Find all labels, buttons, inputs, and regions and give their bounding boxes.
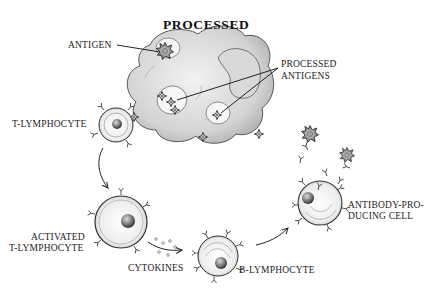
activated-label-line2: T-LYMPHOCYTE bbox=[9, 243, 83, 254]
arrow-t-to-activated bbox=[99, 148, 108, 188]
t-lymphocyte-label: T-LYMPHOCYTE bbox=[12, 119, 86, 130]
macrophage-title: PROCESSED bbox=[163, 17, 249, 33]
activated-label-line1: ACTIVATED bbox=[31, 232, 85, 243]
antibody-producing-label-line2: DUCING CELL bbox=[348, 211, 413, 222]
b-lymphocyte-label: B-LYMPHOCYTE bbox=[239, 265, 315, 276]
macrophage-cell bbox=[127, 26, 273, 143]
activated-t-lymphocyte-cell bbox=[88, 188, 151, 253]
t-lymphocyte-cell bbox=[91, 103, 135, 147]
arrow-cytokines bbox=[148, 242, 182, 250]
processed-antigens-label-line2: ANTIGENS bbox=[281, 71, 330, 82]
processed-antigens-label-line1: PROCESSED bbox=[281, 59, 337, 70]
antibody-bound-antigens bbox=[302, 126, 355, 163]
arrow-b-to-plasma bbox=[256, 228, 288, 245]
antigen-label: ANTIGEN bbox=[68, 40, 112, 51]
cytokines-label: CYTOKINES bbox=[128, 263, 183, 274]
antibody-producing-cell bbox=[292, 178, 349, 231]
antibody-producing-label-line1: ANTIBODY-PRO- bbox=[348, 200, 424, 211]
b-lymphocyte-cell bbox=[192, 230, 243, 283]
